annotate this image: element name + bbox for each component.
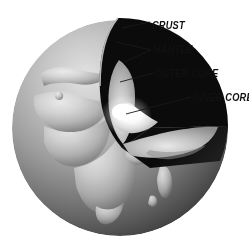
inner-core-hotspot	[112, 104, 134, 121]
earth-cutaway-figure: CRUST MANTLE OUTER CORE INNER CORE	[0, 0, 249, 248]
earth-diagram-svg	[0, 0, 249, 248]
label-mantle: MANTLE	[153, 44, 193, 55]
label-outer-core: OUTER CORE	[155, 68, 218, 79]
label-inner-core: INNER CORE	[193, 92, 249, 103]
label-crust: CRUST	[152, 20, 185, 31]
